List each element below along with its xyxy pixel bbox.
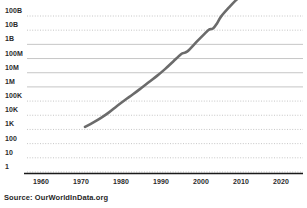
data-series-group — [85, 0, 269, 127]
source-note: Source: OurWorldInData.org — [4, 193, 108, 202]
y-tick-label-1M: 1M — [5, 78, 15, 86]
y-tick-label-10: 10 — [5, 149, 13, 157]
x-tick-label-1990: 1990 — [153, 178, 169, 186]
x-tick-label-2020: 2020 — [273, 178, 289, 186]
series-line-growth — [85, 0, 269, 127]
y-tick-label-1: 1 — [5, 163, 9, 171]
x-tick-label-1970: 1970 — [73, 178, 89, 186]
y-tick-label-100M: 100M — [5, 50, 23, 58]
y-tick-label-10M: 10M — [5, 64, 19, 72]
y-tick-label-100K: 100K — [5, 92, 22, 100]
x-tick-label-1960: 1960 — [33, 178, 49, 186]
y-tick-label-1K: 1K — [5, 120, 14, 128]
y-tick-label-10B: 10B — [5, 21, 18, 29]
y-tick-label-100: 100 — [5, 135, 17, 143]
y-tick-label-10K: 10K — [5, 106, 18, 114]
gridlines-group — [27, 16, 303, 172]
y-tick-label-100B: 100B — [5, 7, 22, 15]
x-tick-label-2000: 2000 — [193, 178, 209, 186]
x-tick-label-2010: 2010 — [233, 178, 249, 186]
chart-figure: 100B10B1B100M10M1M100K10K1K100101 196019… — [0, 0, 307, 208]
y-tick-label-1B: 1B — [5, 35, 14, 43]
chart-plot-area — [0, 0, 307, 208]
x-tick-label-1980: 1980 — [113, 178, 129, 186]
